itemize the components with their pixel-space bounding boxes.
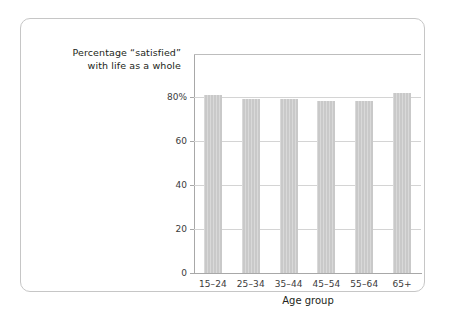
plot-top-rule xyxy=(194,54,421,55)
x-tick-label: 15–24 xyxy=(199,279,227,289)
gridline xyxy=(194,229,421,230)
y-tick-mark xyxy=(190,97,194,98)
x-tick-label: 65+ xyxy=(392,279,411,289)
y-tick-mark xyxy=(190,185,194,186)
bar xyxy=(317,101,335,273)
y-tick-label: 60 xyxy=(176,136,187,146)
chart-title: Percentage “satisfied” with life as a wh… xyxy=(33,47,181,72)
y-tick-label: 40 xyxy=(176,180,187,190)
chart-title-line-2: with life as a whole xyxy=(33,60,181,73)
y-tick-mark xyxy=(190,229,194,230)
x-axis-line xyxy=(194,273,422,274)
gridline xyxy=(194,97,421,98)
y-tick-label: 80% xyxy=(167,92,187,102)
x-tick-label: 35–44 xyxy=(275,279,303,289)
bar xyxy=(204,95,222,273)
bar xyxy=(355,101,373,273)
bar xyxy=(242,99,260,273)
x-tick-label: 55–64 xyxy=(350,279,378,289)
chart-title-line-1: Percentage “satisfied” xyxy=(33,47,181,60)
y-tick-label: 20 xyxy=(176,224,187,234)
bar xyxy=(393,93,411,273)
x-tick-label: 25–34 xyxy=(237,279,265,289)
plot-area: 020406080% xyxy=(194,54,421,273)
gridline xyxy=(194,185,421,186)
y-tick-mark xyxy=(190,273,194,274)
chart-figure-frame: Percentage “satisfied” with life as a wh… xyxy=(20,18,425,292)
bar xyxy=(280,99,298,273)
x-tick-label: 45–54 xyxy=(312,279,340,289)
gridline xyxy=(194,141,421,142)
y-tick-label: 0 xyxy=(181,268,187,278)
y-tick-mark xyxy=(190,141,194,142)
x-axis-title: Age group xyxy=(194,295,422,306)
